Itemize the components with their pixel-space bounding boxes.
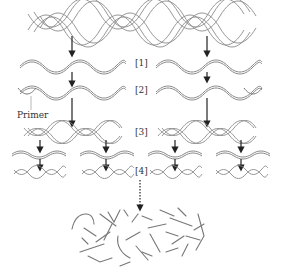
pcr-diagram: [0, 0, 281, 275]
arrows-step1-to-step2: [72, 72, 207, 84]
primer-label: Primer: [17, 111, 48, 120]
step2-label: [2]: [135, 86, 148, 95]
arrows-step2-to-step3: [72, 98, 207, 124]
arrows-template-to-step1: [72, 36, 207, 54]
template-helix: [28, 0, 256, 47]
amplified-fragments: [72, 208, 204, 266]
step3-label: [3]: [135, 128, 148, 137]
split-strands: [12, 151, 270, 159]
step1-label: [1]: [135, 59, 148, 68]
step4-label: [4]: [135, 167, 148, 176]
